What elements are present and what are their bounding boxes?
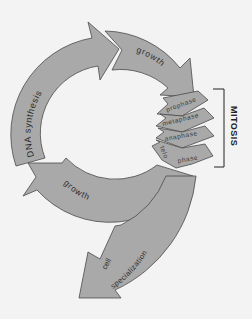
dna-synthesis-arrow: DNA synthesis [11, 22, 119, 166]
mitosis-bracket: MITOSIS [213, 89, 239, 167]
cell-cycle-diagram: DNA synthesis growth prophase metaphase … [0, 0, 252, 319]
mitosis-label: MITOSIS [229, 106, 239, 146]
growth-top-arrow: growth [105, 31, 194, 97]
mitosis-phases: prophase metaphase anaphase telo phase [152, 91, 214, 168]
